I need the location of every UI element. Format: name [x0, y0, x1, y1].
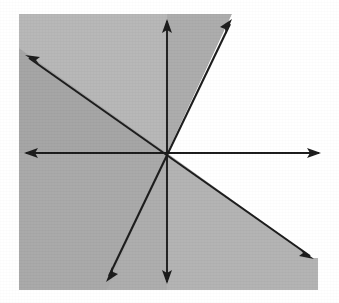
ray-diagram-svg: Shaded region bounded by rays through a … [0, 0, 339, 303]
shaded-region-group [19, 14, 339, 290]
origin-point [166, 152, 169, 155]
figure-root: Shaded region bounded by rays through a … [0, 0, 339, 303]
